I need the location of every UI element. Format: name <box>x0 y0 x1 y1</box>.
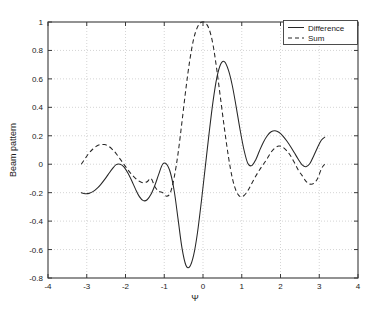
legend-label-sum: Sum <box>308 34 325 43</box>
y-tick-label: 0 <box>39 160 44 169</box>
y-tick-label: 0.2 <box>32 132 44 141</box>
x-tick-label: -1 <box>161 282 169 291</box>
y-tick-label: 0.6 <box>32 75 44 84</box>
figure-canvas: -4-3-2-101234 -0.8-0.6-0.4-0.200.20.40.6… <box>0 0 382 315</box>
y-tick-label: -0.4 <box>29 217 43 226</box>
x-tick-label: -2 <box>122 282 130 291</box>
y-tick-labels: -0.8-0.6-0.4-0.200.20.40.60.81 <box>29 18 43 283</box>
x-tick-label: 1 <box>240 282 245 291</box>
beam-pattern-chart: -4-3-2-101234 -0.8-0.6-0.4-0.200.20.40.6… <box>0 0 382 315</box>
x-tick-labels: -4-3-2-101234 <box>44 282 360 291</box>
y-tick-label: 0.4 <box>32 103 44 112</box>
y-tick-label: 1 <box>39 18 44 27</box>
tick-marks <box>48 22 358 278</box>
x-tick-label: 2 <box>278 282 283 291</box>
y-tick-label: -0.8 <box>29 274 43 283</box>
plot-frame <box>48 22 358 278</box>
y-tick-label: -0.6 <box>29 246 43 255</box>
x-tick-label: 3 <box>317 282 322 291</box>
x-tick-label: -3 <box>83 282 91 291</box>
x-axis-label: Ψ <box>191 293 199 303</box>
y-tick-label: -0.2 <box>29 189 43 198</box>
y-axis-label: Beam pattern <box>8 123 18 177</box>
legend-label-difference: Difference <box>308 24 345 33</box>
y-tick-label: 0.8 <box>32 46 44 55</box>
x-tick-label: 4 <box>356 282 361 291</box>
x-tick-label: -4 <box>44 282 52 291</box>
chart-legend[interactable]: Difference Sum <box>284 21 358 45</box>
gridlines <box>48 22 358 278</box>
x-tick-label: 0 <box>201 282 206 291</box>
series-difference <box>81 61 324 267</box>
